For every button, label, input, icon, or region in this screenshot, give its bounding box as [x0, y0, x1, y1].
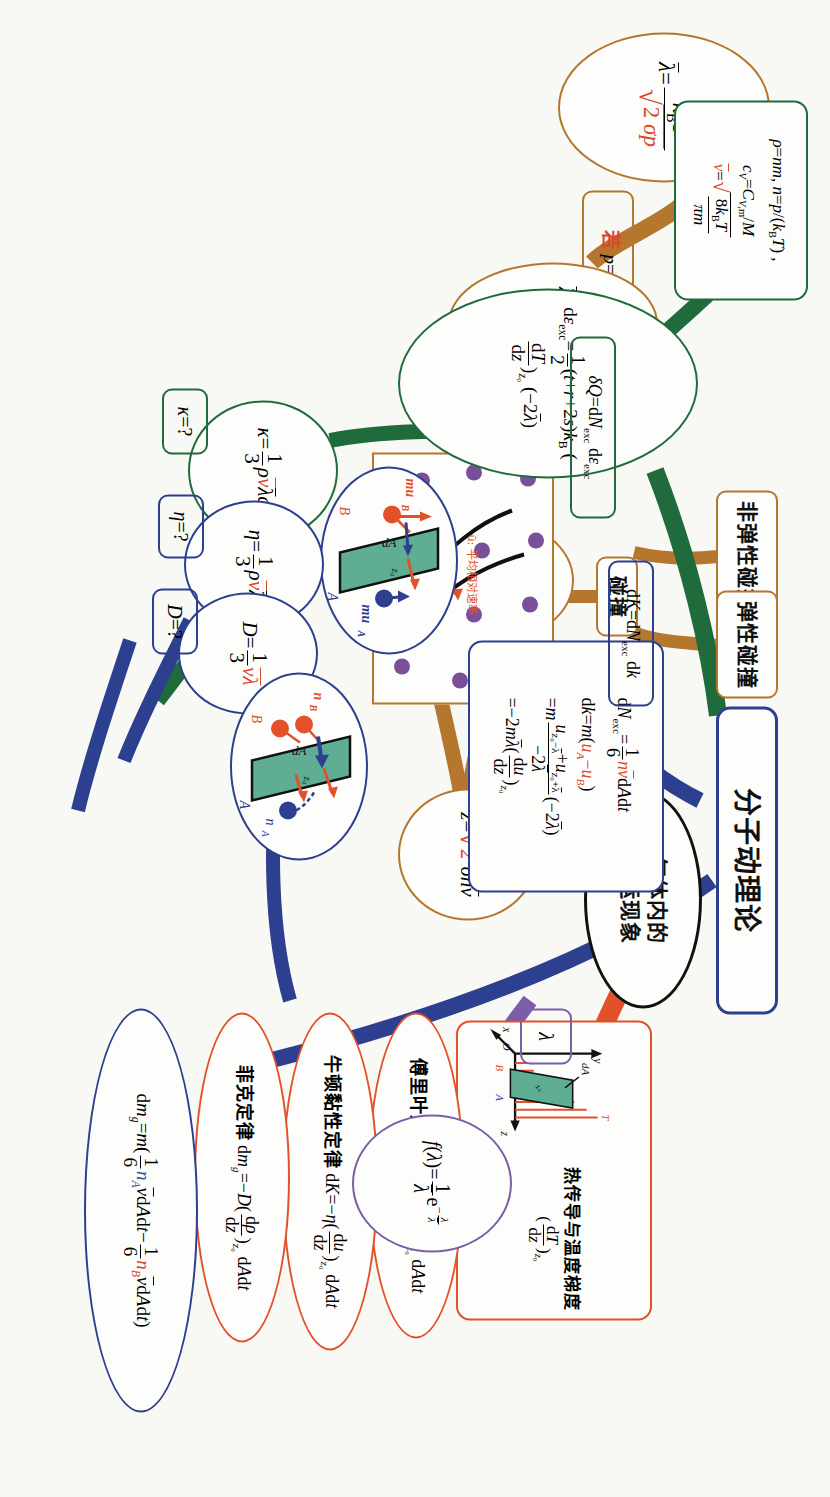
svg-text:z₀: z₀ — [302, 775, 314, 784]
svg-text:y: y — [591, 1057, 604, 1064]
node-gas-props[interactable]: ρ=nm, n=p/(kBT) , cV=CV,m/M v=√8kBTπm — [674, 100, 808, 300]
node-de-exc[interactable]: dεexc=12(t+r+2s)kB (dTdz)z₀ (−2λ) — [398, 288, 698, 478]
mindmap-page: 分子动理论 气体内的输运现象 λ=kBT√2 σp 若 p=nkBT λ=1/(… — [0, 0, 830, 1497]
node-dQ-exc[interactable]: δQ=dNexc dεexc — [570, 336, 616, 518]
root-node[interactable]: 分子动理论 — [716, 706, 778, 1014]
svg-text:B: B — [400, 503, 411, 511]
svg-text:dA: dA — [382, 534, 397, 549]
momentum-figure-svg: dA z₀ mu B mu A B A — [326, 472, 452, 648]
svg-text:dA: dA — [292, 742, 307, 757]
svg-text:mu: mu — [359, 604, 374, 623]
svg-text:A: A — [260, 829, 271, 837]
root-label: 分子动理论 — [728, 782, 767, 939]
mindmap-canvas: 分子动理论 气体内的输运现象 λ=kBT√2 σp 若 p=nkBT λ=1/(… — [0, 0, 830, 1497]
svg-text:mu: mu — [403, 478, 418, 497]
node-f-lambda[interactable]: f(λ)=1λe−λλ — [352, 1114, 512, 1252]
svg-text:A: A — [237, 799, 252, 809]
node-eta-q[interactable]: η=? — [158, 494, 204, 558]
node-momentum-figure[interactable]: dA z₀ mu B mu A B A — [320, 466, 458, 654]
svg-text:dA: dA — [580, 1062, 592, 1074]
node-density-figure[interactable]: dA z₀ n B n A B A — [230, 672, 368, 860]
density-figure-svg: dA z₀ n B n A B A — [236, 678, 362, 854]
svg-text:z₀: z₀ — [390, 567, 402, 576]
svg-text:x: x — [500, 1026, 513, 1033]
node-dK-exc[interactable]: dK=dNexc dk — [608, 560, 654, 706]
node-D-q[interactable]: D=? — [152, 588, 198, 654]
svg-text:O: O — [501, 1042, 513, 1050]
svg-text:B: B — [494, 1064, 506, 1071]
svg-text:B: B — [337, 506, 352, 515]
svg-text:B: B — [249, 714, 264, 723]
node-fick-law[interactable]: 菲克定律 dmg=−D(dρdz)z₀ dAdt — [194, 1012, 290, 1342]
cross-section-u-label: ū: 平均相对速率 — [465, 534, 479, 614]
svg-text:z: z — [498, 1130, 511, 1136]
svg-text:n: n — [311, 692, 326, 700]
node-dmg[interactable]: dmg=m(16nAvdAdt−16nBvdAdt) — [84, 1008, 198, 1412]
node-lambda-small[interactable]: λ — [520, 1008, 572, 1064]
svg-text:A: A — [356, 629, 367, 637]
svg-text:A: A — [494, 1093, 506, 1101]
node-kappa-q[interactable]: κ=? — [162, 388, 208, 454]
svg-text:T: T — [600, 1114, 612, 1121]
svg-text:A: A — [326, 591, 340, 601]
elastic-label: 弹性碰撞 — [732, 594, 762, 694]
svg-text:B: B — [308, 703, 319, 711]
svg-text:n: n — [263, 818, 278, 825]
node-elastic-collision[interactable]: 弹性碰撞 — [716, 590, 778, 698]
edge-deexc-root — [655, 470, 718, 715]
edge-D-fick — [78, 640, 130, 810]
